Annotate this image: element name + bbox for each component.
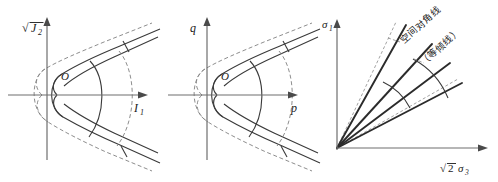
- annotation-space-diagonal-text: 空间对角线: [398, 4, 443, 46]
- panel-principal-stress: σ 1 √ 2 σ 3 空间对角线 （等倾线）: [322, 4, 488, 177]
- y-axis-label: √ J 2: [22, 21, 44, 37]
- ray-3: [337, 63, 450, 148]
- y-axis-arrowhead: [333, 19, 340, 28]
- x-axis-label: I 1: [133, 101, 144, 117]
- y-axis-arrowhead: [203, 17, 210, 26]
- x-axis-label-coef: 2: [448, 162, 454, 174]
- inner-solid-cone-upper: [53, 29, 160, 95]
- x-axis-label-sub: 1: [140, 108, 144, 117]
- y-axis-label-root: √: [22, 21, 29, 35]
- x-axis-label-base: I: [133, 101, 139, 115]
- dashed-cap-arc: [117, 51, 132, 146]
- inner-solid-cone-upper: [213, 29, 320, 95]
- y-axis-label: σ 1: [322, 18, 333, 33]
- x-axis-label: √ 2 σ 3: [440, 162, 469, 177]
- dashed-ray-upper: [337, 22, 396, 148]
- y-axis-arrowhead: [43, 17, 50, 26]
- y-axis-label-sub: 2: [38, 28, 42, 37]
- y-axis-label: q: [190, 21, 196, 35]
- x-axis-label-sub: 3: [464, 168, 469, 177]
- panel-meridian-q-p: q p O: [168, 17, 320, 171]
- origin-label: O: [61, 70, 69, 82]
- x-axis-label-base: σ: [458, 162, 464, 174]
- origin-label: O: [221, 70, 229, 82]
- y-axis-label-base: σ: [322, 18, 328, 30]
- x-axis-label: p: [290, 101, 297, 115]
- y-axis-label-sub: 1: [329, 24, 333, 33]
- annotation-space-diagonal: 空间对角线: [398, 4, 443, 46]
- x-axis-arrowhead: [478, 144, 488, 151]
- figure-yield-surfaces: √ J 2 I 1 O q p O: [0, 0, 498, 182]
- inner-band-upper: [64, 37, 158, 86]
- dashed-cap-arc: [277, 51, 292, 146]
- annotation-equal-inclination: （等倾线）: [418, 26, 463, 68]
- inner-band-lower: [224, 104, 318, 153]
- x-axis-label-root: √: [440, 162, 447, 174]
- inner-band-upper: [224, 37, 318, 86]
- annotation-equal-inclination-text: （等倾线）: [418, 26, 463, 68]
- y-axis-label-base: J: [31, 21, 37, 35]
- panel-meridian-j2-i1: √ J 2 I 1 O: [8, 17, 160, 171]
- x-axis-arrowhead: [138, 91, 148, 98]
- x-axis-arrowhead: [288, 91, 298, 98]
